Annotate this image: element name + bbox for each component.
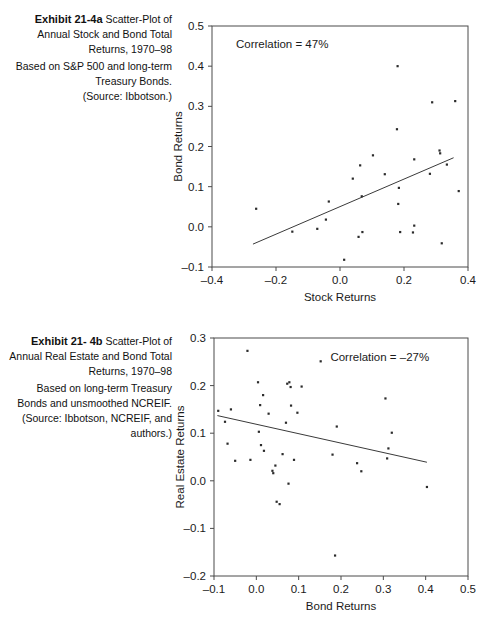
y-axis-tick-label: 0.1 (188, 181, 204, 193)
data-point (226, 443, 228, 445)
data-point (259, 404, 261, 406)
exhibit-21-4a: Exhibit 21-4a Scatter-Plot of Annual Sto… (0, 0, 496, 310)
data-point (293, 459, 295, 461)
x-axis-label: Bond Returns (306, 600, 377, 612)
data-point (439, 152, 441, 154)
y-axis-tick-label: 0.2 (190, 380, 206, 392)
data-point (290, 404, 292, 406)
y-axis-tick-label: 0.3 (188, 100, 204, 112)
data-point (217, 410, 219, 412)
data-point (279, 503, 281, 505)
x-axis-label: Stock Returns (304, 291, 376, 303)
data-point (263, 450, 265, 452)
data-point (249, 459, 251, 461)
y-axis-tick-label: 0.5 (188, 20, 204, 32)
data-point (296, 412, 298, 414)
x-axis-tick-label: 0.1 (291, 583, 307, 595)
data-point (438, 149, 440, 151)
data-point (316, 228, 318, 230)
data-point (262, 394, 264, 396)
exhibit-a-caption-label: Exhibit 21-4a (35, 13, 103, 25)
data-point (224, 421, 226, 423)
y-axis-tick-label: –0.1 (184, 522, 206, 534)
scatter-plot-realestate-bond: –0.2–0.10.00.10.20.3–0.10.00.10.20.30.40… (172, 320, 496, 642)
data-point (412, 231, 414, 233)
data-point (258, 431, 260, 433)
y-axis-tick-label: 0.1 (190, 427, 206, 439)
exhibit-21-4b: Exhibit 21- 4b Scatter-Plot of Annual Re… (0, 320, 496, 642)
data-point (397, 65, 399, 67)
data-point (458, 190, 460, 192)
data-point (361, 195, 363, 197)
x-axis-tick-label: 0.2 (396, 274, 412, 286)
data-point (429, 173, 431, 175)
data-point (384, 397, 386, 399)
y-axis-tick-label: 0.4 (188, 60, 205, 72)
data-point (454, 100, 456, 102)
data-point (396, 128, 398, 130)
exhibit-b-plot: –0.2–0.10.00.10.20.3–0.10.00.10.20.30.40… (172, 320, 496, 630)
plot-frame (212, 26, 468, 267)
y-axis-label: Bond Returns (172, 111, 184, 182)
y-axis-label: Real Estate Returns (174, 405, 186, 508)
exhibit-a-caption-note: Based on S&P 500 and long-term Treasury … (6, 59, 172, 89)
data-point (288, 381, 290, 383)
data-point (352, 178, 354, 180)
x-axis-tick-label: 0.4 (460, 274, 477, 286)
exhibit-a-caption: Exhibit 21-4a Scatter-Plot of Annual Sto… (6, 12, 172, 104)
data-point (413, 225, 415, 227)
x-axis-tick-label: 0.0 (248, 583, 264, 595)
data-point (359, 164, 361, 166)
exhibit-a-caption-source: (Source: Ibbotson.) (6, 89, 172, 104)
exhibit-b-caption-note: Based on long-term Treasury Bonds and un… (6, 381, 172, 411)
x-axis-tick-label: –0.4 (201, 274, 224, 286)
y-axis-tick-label: 0.2 (188, 141, 204, 153)
correlation-annotation: Correlation = –27% (330, 351, 429, 363)
data-point (328, 200, 330, 202)
data-point (398, 187, 400, 189)
data-point (301, 385, 303, 387)
data-point (291, 231, 293, 233)
exhibit-b-caption: Exhibit 21- 4b Scatter-Plot of Annual Re… (6, 334, 172, 441)
data-point (413, 158, 415, 160)
data-point (325, 219, 327, 221)
x-axis-tick-label: –0.1 (203, 583, 225, 595)
data-point (290, 386, 292, 388)
x-axis-tick-label: –0.2 (265, 274, 287, 286)
data-point (446, 163, 448, 165)
x-axis-tick-label: 0.2 (333, 583, 349, 595)
data-point (287, 483, 289, 485)
trend-line (253, 158, 454, 244)
data-point (336, 425, 338, 427)
data-point (397, 203, 399, 205)
data-point (272, 472, 274, 474)
y-axis-tick-label: 0.0 (190, 475, 206, 487)
data-point (331, 454, 333, 456)
data-point (361, 231, 363, 233)
data-point (343, 259, 345, 261)
x-axis-tick-label: 0.5 (460, 583, 476, 595)
y-axis-tick-label: 0.3 (190, 332, 206, 344)
plot-frame (214, 338, 468, 576)
data-point (334, 554, 336, 556)
data-point (271, 470, 273, 472)
data-point (281, 453, 283, 455)
data-point (431, 101, 433, 103)
data-point (286, 383, 288, 385)
data-point (360, 470, 362, 472)
data-point (230, 408, 232, 410)
x-axis-tick-label: 0.3 (375, 583, 391, 595)
data-point (268, 413, 270, 415)
data-point (274, 464, 276, 466)
data-point (372, 154, 374, 156)
data-point (426, 486, 428, 488)
data-point (387, 447, 389, 449)
data-point (260, 444, 262, 446)
exhibit-b-caption-source: (Source: Ibbotson, NCREIF, and authors.) (6, 411, 172, 441)
correlation-annotation: Correlation = 47% (236, 38, 328, 50)
data-point (257, 381, 259, 383)
data-point (441, 242, 443, 244)
data-point (357, 236, 359, 238)
x-axis-tick-label: 0.0 (332, 274, 348, 286)
data-point (399, 231, 401, 233)
